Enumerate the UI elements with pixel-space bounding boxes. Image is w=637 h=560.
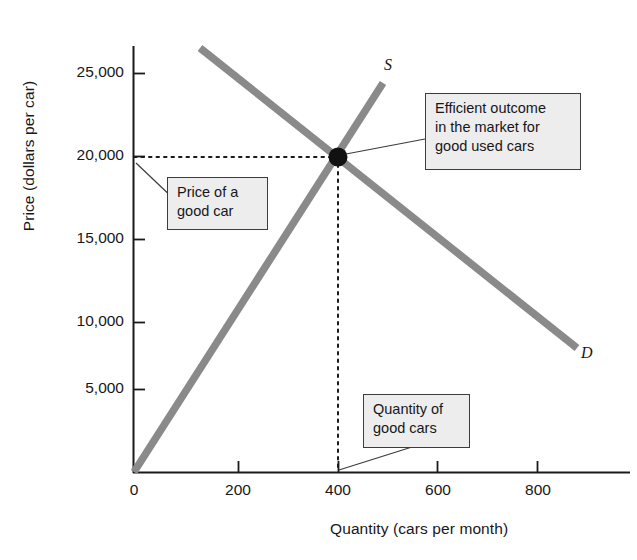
y-tick-label-10000: 10,000 [38,312,124,330]
y-tick-label-15000: 15,000 [38,229,124,247]
callout-price-of-a-good-car: Price of a good car [167,177,268,230]
demand-curve-label: D [581,344,593,362]
quantity-callout-leader [339,447,412,470]
x-tick-label-400: 400 [303,481,373,499]
efficient-callout-leader [346,139,425,154]
callout-efficient-outcome: Efficient outcome in the market for good… [425,93,581,170]
supply-curve [134,83,383,472]
x-tick-label-600: 600 [403,481,473,499]
supply-curve-label: S [384,56,392,74]
y-axis-ticks [133,74,145,390]
x-tick-label-0: 0 [99,481,169,499]
x-tick-label-800: 800 [503,481,573,499]
x-tick-label-200: 200 [203,481,273,499]
y-tick-label-20000: 20,000 [38,146,124,164]
y-tick-label-25000: 25,000 [38,63,124,81]
chart-canvas [0,0,637,560]
callout-quantity-of-good-cars: Quantity of good cars [363,394,470,448]
equilibrium-point [329,148,348,167]
x-axis-title: Quantity (cars per month) [330,520,508,538]
chart-figure: Price (dollars per car) Quantity (cars p… [0,0,637,560]
y-axis-title: Price (dollars per car) [20,51,38,261]
y-tick-label-5000: 5,000 [38,379,124,397]
x-axis-ticks [239,461,538,473]
